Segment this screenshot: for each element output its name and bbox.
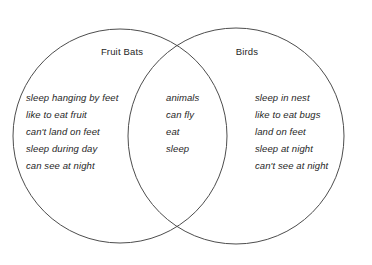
list-item: animals — [166, 89, 199, 106]
list-item: can fly — [166, 106, 199, 123]
set-title-left: Fruit Bats — [101, 46, 143, 57]
item-list-center-intersection: animals can fly eat sleep — [166, 89, 199, 157]
list-item: land on feet — [255, 123, 328, 140]
list-item: can't land on feet — [26, 123, 118, 140]
venn-diagram: Fruit Bats Birds sleep hanging by feet l… — [0, 0, 372, 265]
list-item: eat — [166, 123, 199, 140]
list-item: like to eat fruit — [26, 106, 118, 123]
list-item: sleep hanging by feet — [26, 89, 118, 106]
list-item: can't see at night — [255, 157, 328, 174]
item-list-left: sleep hanging by feet like to eat fruit … — [26, 89, 118, 174]
list-item: sleep in nest — [255, 89, 328, 106]
list-item: like to eat bugs — [255, 106, 328, 123]
set-title-right: Birds — [236, 46, 258, 57]
list-item: sleep during day — [26, 140, 118, 157]
list-item: can see at night — [26, 157, 118, 174]
list-item: sleep at night — [255, 140, 328, 157]
list-item: sleep — [166, 140, 199, 157]
item-list-right: sleep in nest like to eat bugs land on f… — [255, 89, 328, 174]
